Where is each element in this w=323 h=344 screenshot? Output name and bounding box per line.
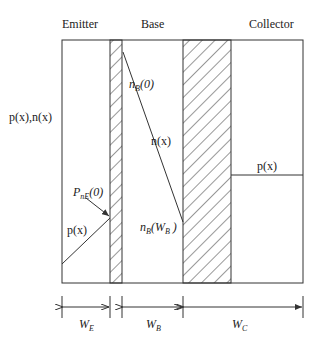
nbwb-arg-close: ) [170, 220, 177, 234]
pne0-sub: nE [80, 192, 89, 201]
we-sub: E [89, 324, 94, 333]
p-collector-label: p(x) [257, 160, 277, 172]
eb-depletion-region [110, 40, 122, 283]
axis-label: p(x),n(x) [9, 111, 52, 123]
p-emitter-label: p(x) [67, 224, 87, 236]
wc-label: WC [232, 318, 247, 333]
wc-sub: C [242, 324, 247, 333]
base-label: Base [141, 18, 164, 30]
bc-depletion-region [183, 40, 231, 283]
pne0-label: PnE(0) [73, 186, 103, 201]
nbwb-arg-open: (W [151, 220, 165, 234]
we-label: WE [79, 318, 94, 333]
wb-sub: B [156, 324, 161, 333]
wc-main: W [232, 317, 242, 331]
nb0-arg: (0) [140, 77, 154, 91]
pne0-arg: (0) [89, 185, 103, 199]
collector-label: Collector [249, 18, 294, 30]
wb-main: W [146, 317, 156, 331]
nb0-label: nB(0) [129, 78, 154, 93]
emitter-label: Emitter [62, 18, 98, 30]
we-main: W [79, 317, 89, 331]
n-base-label: n(x) [151, 135, 171, 147]
nbwb-label: nB(WB ) [140, 221, 177, 236]
wb-label: WB [146, 318, 161, 333]
